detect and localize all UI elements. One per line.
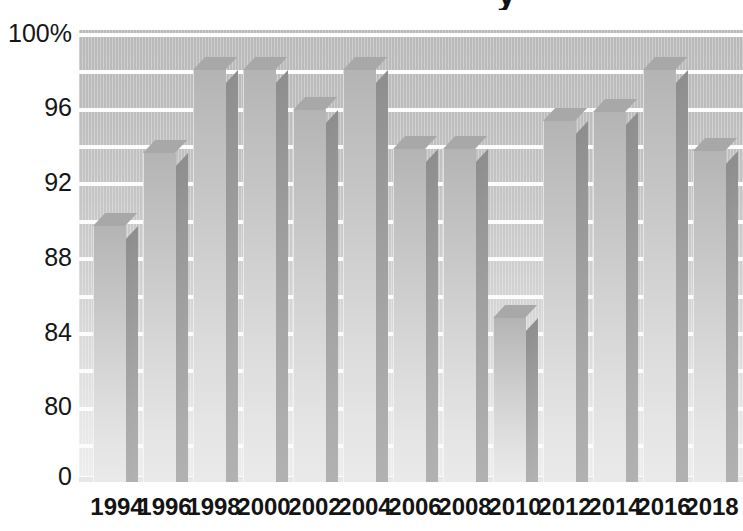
bar-front-face (193, 70, 226, 482)
bar-side-face (175, 153, 188, 482)
bar-front-face (243, 70, 276, 482)
bar-front-face (543, 121, 576, 482)
y-tick-label: 96 (0, 95, 72, 120)
bar-front-face (93, 226, 126, 482)
bar-front-face (493, 318, 526, 482)
bar-side-face (475, 149, 488, 482)
bar-side-face (525, 318, 538, 482)
y-tick-label: 84 (0, 320, 72, 345)
bar-front-face (443, 149, 476, 482)
bar-side-face (325, 110, 338, 482)
bar-2004 (343, 70, 375, 482)
bar-1994 (93, 226, 125, 482)
bar-front-face (143, 153, 176, 482)
y-tick-label: 92 (0, 170, 72, 195)
x-axis: 1994199619982000200220042006200820102012… (0, 495, 743, 531)
bar-side-face (275, 70, 288, 482)
bar-1996 (143, 153, 175, 482)
bar-side-face (375, 70, 388, 482)
bar-1998 (193, 70, 225, 482)
bar-side-face (575, 121, 588, 482)
plot-area (79, 30, 743, 482)
chart-screenshot: y 100%96928884800 1994199619982000200220… (0, 0, 743, 531)
y-tick-label: 80 (0, 394, 72, 419)
bar-side-face (125, 226, 138, 482)
bar-2010 (493, 318, 525, 482)
bar-front-face (343, 70, 376, 482)
x-tick-label: 2018 (682, 495, 742, 519)
y-tick-label: 0 (0, 464, 72, 489)
bar-2018 (693, 151, 725, 482)
bar-2002 (293, 110, 325, 482)
bar-side-face (425, 149, 438, 482)
bar-side-face (725, 151, 738, 482)
bar-2014 (593, 112, 625, 482)
bar-side-face (625, 112, 638, 482)
bar-front-face (393, 149, 426, 482)
cropped-chart-title: y (0, 0, 743, 10)
y-axis: 100%96928884800 (0, 0, 72, 531)
bar-2000 (243, 70, 275, 482)
bar-2012 (543, 121, 575, 482)
bar-2016 (643, 70, 675, 482)
bar-front-face (593, 112, 626, 482)
y-tick-label: 100% (0, 21, 72, 46)
y-tick-label: 88 (0, 245, 72, 270)
gridline (79, 33, 743, 37)
bar-front-face (693, 151, 726, 482)
bar-2008 (443, 149, 475, 482)
bar-front-face (643, 70, 676, 482)
chart-title-text: y (497, 0, 516, 10)
bar-2006 (393, 149, 425, 482)
bar-side-face (225, 70, 238, 482)
bar-side-face (675, 70, 688, 482)
bar-front-face (293, 110, 326, 482)
